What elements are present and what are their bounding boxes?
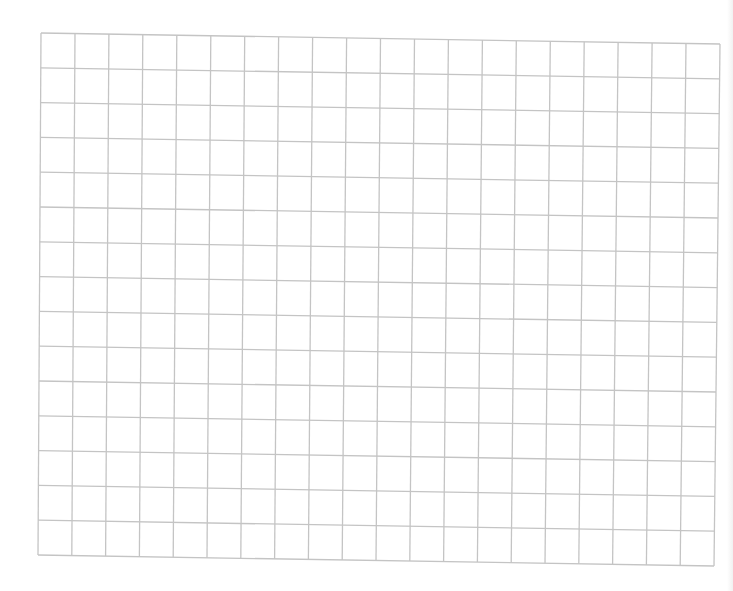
grid-vertical-line [376, 39, 381, 561]
grid-vertical-line [207, 36, 211, 558]
grid-vertical-line [342, 38, 346, 560]
grid-vertical-line [106, 34, 109, 556]
grid-vertical-line [139, 35, 142, 557]
grid-vertical-line [410, 39, 415, 561]
grid-vertical-line [308, 37, 312, 559]
grid-vertical-line [613, 42, 619, 564]
grid-vertical-line [545, 41, 550, 563]
grid-vertical-line [38, 33, 41, 555]
grid-vertical-line [477, 40, 482, 562]
grid-vertical-line [714, 44, 720, 566]
grid-vertical-line [511, 41, 516, 563]
grid-vertical-line [241, 36, 245, 558]
grid-vertical-line [680, 44, 686, 566]
grid-vertical-line [173, 35, 177, 557]
graph-paper-grid [0, 0, 733, 591]
grid-vertical-line [579, 42, 584, 564]
grid-vertical-line [444, 40, 449, 562]
grid-vertical-line [275, 37, 279, 559]
grid-vertical-line [72, 34, 75, 556]
grid-vertical-line [646, 43, 652, 565]
